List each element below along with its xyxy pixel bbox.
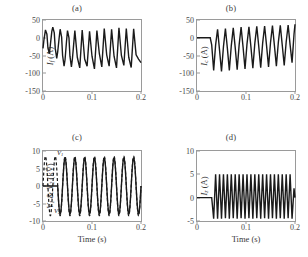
- subplot-d: (d) Iz (A) 10 5 0 -5 0 0.1 0.2 Time (s): [154, 129, 308, 257]
- subplot-d-xtick-1: 0.1: [241, 223, 251, 232]
- subplot-d-xtick-2: 0.2: [290, 223, 300, 232]
- subplot-a-axes: If (A) 50 0 -50 -100 -150 0 0.1 0.2: [42, 19, 142, 92]
- subplot-b-ytick-0: 50: [186, 16, 194, 25]
- subplot-a-trace: [43, 20, 141, 91]
- subplot-b-ytick-4: -150: [179, 87, 194, 96]
- subplot-a-ytick-2: -50: [29, 51, 40, 60]
- subplot-c-ytick-3: -5: [33, 199, 40, 208]
- subplot-b-ytick-2: -50: [183, 51, 194, 60]
- subplot-a-title: (a): [0, 3, 154, 13]
- subplot-a-xtick-2: 0.2: [136, 93, 146, 102]
- subplot-d-xtick-0: 0: [195, 223, 199, 232]
- subplot-c-ytick-0: 10: [32, 147, 40, 156]
- subplot-c: (c) V1 & V2 (kV) 10 5 0 -5 -10 0 0.1 0.2…: [0, 129, 154, 257]
- subplot-c-xtick-2: 0.2: [136, 223, 146, 232]
- subplot-a-ytick-0: 50: [32, 16, 40, 25]
- subplot-c-ytick-2: 0: [36, 182, 40, 191]
- subplot-b: (b) Ic (A) 50 0 -50 -100 -150 0 0.1 0.2: [154, 0, 308, 129]
- subplot-b-trace: [197, 20, 295, 91]
- subplot-c-xtick-1: 0.1: [87, 223, 97, 232]
- subplot-a: (a) If (A) 50 0 -50 -100 -150 0 0.1 0.2: [0, 0, 154, 129]
- subplot-d-trace: [197, 151, 295, 221]
- subplot-d-ytick-2: 0: [190, 193, 194, 202]
- subplot-b-title: (b): [154, 3, 308, 13]
- subplot-c-ytick-1: 5: [36, 164, 40, 173]
- subplot-d-ytick-1: 5: [190, 170, 194, 179]
- subplot-b-ytick-1: 0: [190, 33, 194, 42]
- subplot-c-title: (c): [0, 132, 154, 142]
- subplot-a-xtick-0: 0: [41, 93, 45, 102]
- subplot-b-xtick-2: 0.2: [290, 93, 300, 102]
- subplot-a-ytick-3: -100: [25, 69, 40, 78]
- subplot-b-xtick-1: 0.1: [241, 93, 251, 102]
- subplot-a-xtick-1: 0.1: [87, 93, 97, 102]
- subplot-c-xtick-0: 0: [41, 223, 45, 232]
- subplot-b-xtick-0: 0: [195, 93, 199, 102]
- subplot-c-xlabel: Time (s): [43, 234, 141, 244]
- subplot-c-traces: [43, 151, 141, 221]
- subplot-a-ytick-4: -150: [25, 87, 40, 96]
- subplot-a-ytick-1: 0: [36, 33, 40, 42]
- figure-panel-grid: (a) If (A) 50 0 -50 -100 -150 0 0.1 0.2 …: [0, 0, 308, 257]
- subplot-b-axes: Ic (A) 50 0 -50 -100 -150 0 0.1 0.2: [196, 19, 296, 92]
- subplot-d-title: (d): [154, 132, 308, 142]
- subplot-d-ytick-0: 10: [186, 147, 194, 156]
- subplot-d-xlabel: Time (s): [197, 234, 295, 244]
- subplot-d-axes: Iz (A) 10 5 0 -5 0 0.1 0.2 Time (s): [196, 150, 296, 222]
- subplot-d-ytick-3: -5: [187, 217, 194, 226]
- subplot-c-ytick-4: -10: [29, 217, 40, 226]
- subplot-b-ytick-3: -100: [179, 69, 194, 78]
- subplot-c-axes: V1 & V2 (kV) 10 5 0 -5 -10 0 0.1 0.2 Tim…: [42, 150, 142, 222]
